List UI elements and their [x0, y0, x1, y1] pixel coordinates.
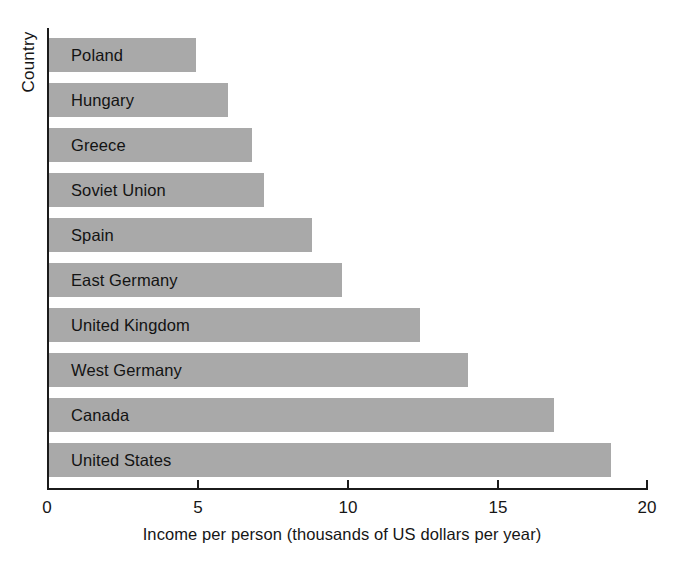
- x-tick-0: [47, 480, 49, 490]
- bar-label-east-germany: East Germany: [71, 263, 178, 297]
- bar-label-canada: Canada: [71, 398, 129, 432]
- bar-label-spain: Spain: [71, 218, 114, 252]
- x-axis-title: Income per person (thousands of US dolla…: [0, 525, 684, 544]
- x-tick-label-0: 0: [27, 498, 67, 518]
- bar-label-greece: Greece: [71, 128, 126, 162]
- x-tick-label-10: 10: [328, 498, 368, 518]
- x-tick-label-20: 20: [627, 498, 667, 518]
- bar-label-united-states: United States: [71, 443, 171, 477]
- bar-chart: Country Poland Hungary Greece Soviet Uni…: [0, 0, 684, 573]
- bars-layer: Poland Hungary Greece Soviet Union Spain: [49, 38, 647, 488]
- bar-label-soviet-union: Soviet Union: [71, 173, 166, 207]
- x-tick-label-15: 15: [478, 498, 518, 518]
- x-tick-10: [347, 480, 349, 490]
- y-axis-title: Country: [19, 7, 39, 117]
- x-tick-15: [497, 480, 499, 490]
- bar-label-west-germany: West Germany: [71, 353, 182, 387]
- bar-label-hungary: Hungary: [71, 83, 134, 117]
- x-tick-label-5: 5: [178, 498, 218, 518]
- x-tick-5: [197, 480, 199, 490]
- plot-area: Poland Hungary Greece Soviet Union Spain: [47, 28, 647, 490]
- x-tick-20: [646, 480, 648, 490]
- bar-label-poland: Poland: [71, 38, 123, 72]
- bar-label-united-kingdom: United Kingdom: [71, 308, 190, 342]
